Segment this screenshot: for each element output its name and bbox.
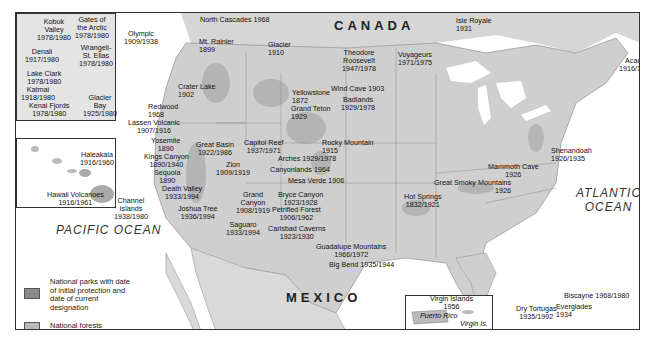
park-yosemite: Yosemite1890 xyxy=(151,137,180,153)
park-kobuk-valley: KobukValley1978/1980 xyxy=(37,18,71,42)
park-lassen-volcanic: Lassen Volcanic1907/1916 xyxy=(128,119,180,135)
park-yellowstone: Yellowstone1872 xyxy=(292,89,330,105)
park-carlsbad-caverns: Carlsbad Caverns1923/1930 xyxy=(268,225,326,241)
park-joshua-tree: Joshua Tree1936/1994 xyxy=(178,205,218,221)
legend-swatch-parks xyxy=(24,288,40,299)
park-saguaro: Saguaro1933/1994 xyxy=(226,221,260,237)
park-rocky-mountain: Rocky Mountain1915 xyxy=(322,139,374,155)
park-denali: Denali1917/1980 xyxy=(25,48,59,64)
park-grand-teton: Grand Teton1929 xyxy=(291,105,330,121)
park-virgin-islands: Virgin Islands1956 xyxy=(430,295,473,311)
park-isle-royale: Isle Royale1931 xyxy=(456,17,492,33)
park-great-smoky-mountains: Great Smoky Mountains1926 xyxy=(434,179,511,195)
label-mexico: MEXICO xyxy=(286,290,361,305)
park-grand-canyon: GrandCanyon1908/1919 xyxy=(236,191,270,215)
park-shenandoah: Shenandoah1926/1935 xyxy=(551,147,592,163)
park-petrified-forest: Petrified Forest1906/1962 xyxy=(272,206,321,222)
national-parks-map: KobukValley1978/1980 Gates ofthe Arctic1… xyxy=(15,12,640,330)
park-hawaii-volcanoes: Hawaii Volcanoes1916/1961 xyxy=(47,191,104,207)
park-acadia: Acadia1916/1929 xyxy=(619,57,640,73)
legend-swatch-forests xyxy=(24,322,40,330)
park-gates-of-the-arctic: Gates ofthe Arctic1978/1980 xyxy=(75,16,109,40)
park-canyonlands: Canyonlands 1964 xyxy=(270,166,330,174)
park-channel-islands: ChannelIslands1938/1980 xyxy=(114,197,148,221)
park-badlands: Badlands1929/1978 xyxy=(341,96,375,112)
park-capitol-reef: Capitol Reef1937/1971 xyxy=(244,139,284,155)
park-redwood: Redwood1968 xyxy=(148,103,178,119)
label-atlantic-ocean: ATLANTICOCEAN xyxy=(576,186,640,214)
hawaii-inset: Haleakala1916/1960 Hawaii Volcanoes1916/… xyxy=(16,138,116,208)
park-crater-lake: Crater Lake1902 xyxy=(178,83,216,99)
park-kenai-fjords: Kenai Fjords1978/1980 xyxy=(29,102,69,118)
park-theodore-roosevelt: TheodoreRoosevelt1947/1978 xyxy=(342,49,376,73)
park-mesa-verde: Mesa Verde 1906 xyxy=(288,177,344,185)
park-big-bend: Big Bend 1935/1944 xyxy=(329,261,394,269)
park-biscayne: Biscayne 1968/1980 xyxy=(564,292,629,300)
label-pacific-ocean: PACIFIC OCEAN xyxy=(56,223,161,237)
park-kings-canyon: Kings Canyon1890/1940 xyxy=(144,153,189,169)
park-wrangell-st-elias: Wrangell-St. Elias1978/1980 xyxy=(79,44,113,68)
alaska-inset: KobukValley1978/1980 Gates ofthe Arctic1… xyxy=(16,13,116,121)
park-guadalupe-mountains: Guadalupe Mountains1966/1972 xyxy=(316,243,386,259)
park-olympic: Olympic1909/1938 xyxy=(124,30,158,46)
park-voyageurs: Voyageurs1971/1975 xyxy=(398,51,432,67)
park-great-basin: Great Basin1922/1986 xyxy=(196,141,234,157)
legend-label-forests: National forests xyxy=(50,322,102,330)
park-mammoth-cave: Mammoth Cave1926 xyxy=(488,163,539,179)
park-haleakala: Haleakala1916/1960 xyxy=(80,151,114,167)
label-canada: CANADA xyxy=(334,18,414,33)
park-death-valley: Death Valley1933/1994 xyxy=(162,185,202,201)
park-north-cascades: North Cascades 1968 xyxy=(200,16,270,24)
park-dry-tortugas: Dry Tortugas1935/1992 xyxy=(516,305,557,321)
park-sequoia: Sequoia1890 xyxy=(154,169,180,185)
park-everglades: Everglades1934 xyxy=(556,303,592,319)
park-wind-cave: Wind Cave 1903 xyxy=(331,85,384,93)
park-lake-clark: Lake Clark1978/1980 xyxy=(27,70,61,86)
park-arches: Arches 1929/1978 xyxy=(278,155,336,163)
map-legend: National parks with date of initial prot… xyxy=(24,278,135,330)
park-glacier: Glacier1910 xyxy=(268,41,291,57)
park-katmai: Katmai1918/1980 xyxy=(21,86,55,102)
park-glacier-bay: GlacierBay1925/1980 xyxy=(83,94,117,118)
legend-label-parks: National parks with date of initial prot… xyxy=(50,278,135,312)
label-virgin-is: Virgin Is. xyxy=(460,320,488,328)
park-mt-rainier: Mt. Rainier1899 xyxy=(199,38,234,54)
label-puerto-rico: Puerto Rico xyxy=(420,312,458,320)
park-zion: Zion1909/1919 xyxy=(216,161,250,177)
park-hot-springs: Hot Springs1832/1921 xyxy=(404,193,442,209)
